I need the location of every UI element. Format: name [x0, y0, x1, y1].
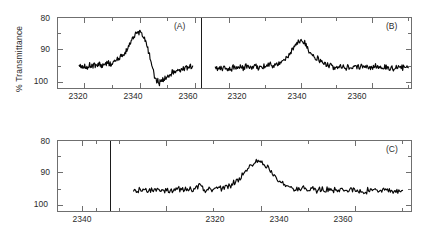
panel-row-top: % Transmittance 80 90 100 (A) (B) 2320 2…: [0, 0, 422, 123]
spectrum-trace-c: [134, 159, 403, 194]
plot-canvas-top: [0, 0, 422, 123]
spectrum-trace-b: [215, 39, 408, 71]
spectrum-trace-a: [79, 30, 193, 85]
plot-canvas-bottom: [0, 123, 422, 246]
tick-marks-top: [57, 17, 412, 89]
spectroscopy-figure: % Transmittance 80 90 100 (A) (B) 2320 2…: [0, 0, 422, 246]
panel-row-bottom: % Transmittance 80 90 100 (C) 2340 2320 …: [0, 123, 422, 246]
tick-marks-bottom: [57, 140, 412, 212]
